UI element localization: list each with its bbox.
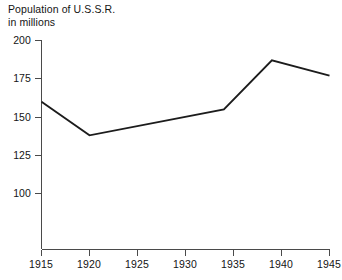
x-tick-label-1925: 1925 <box>125 258 149 270</box>
line-chart-plot: 200 175 150 125 100 1915 1920 1925 1930 … <box>0 0 342 280</box>
x-tick-label-1940: 1940 <box>269 258 293 270</box>
x-tick-label-1930: 1930 <box>173 258 197 270</box>
data-series-line <box>42 60 330 135</box>
y-tick-label-175: 175 <box>13 72 31 84</box>
chart-container: Population of U.S.S.R. in millions 200 1… <box>0 0 342 280</box>
y-tick-label-125: 125 <box>13 149 31 161</box>
y-tick-label-150: 150 <box>13 111 31 123</box>
y-tick-label-200: 200 <box>13 34 31 46</box>
y-axis-ticks <box>35 41 42 194</box>
x-axis-ticks <box>42 250 330 257</box>
x-axis-labels: 1915 1920 1925 1930 1935 1940 1945 <box>29 258 341 270</box>
x-tick-label-1915: 1915 <box>29 258 53 270</box>
y-tick-label-100: 100 <box>13 187 31 199</box>
y-axis-labels: 200 175 150 125 100 <box>13 34 31 199</box>
x-tick-label-1945: 1945 <box>317 258 341 270</box>
x-tick-label-1935: 1935 <box>221 258 245 270</box>
x-tick-label-1920: 1920 <box>77 258 101 270</box>
